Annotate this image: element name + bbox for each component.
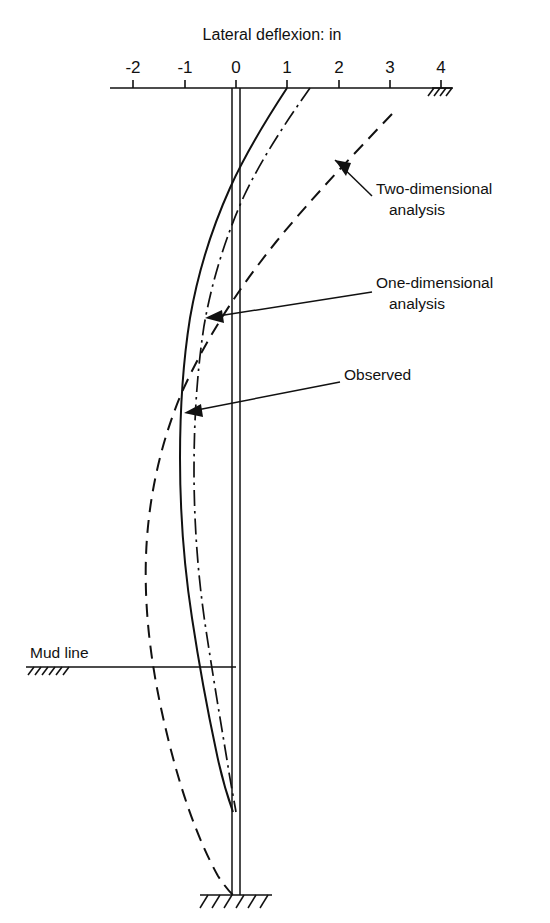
x-tick-label-0: 0 bbox=[231, 58, 240, 77]
annotation-two-dimensional-line1: Two-dimensional bbox=[376, 180, 492, 197]
curve-observed bbox=[180, 88, 287, 812]
x-tick-label-4: 4 bbox=[436, 58, 445, 77]
arrowhead-one-dimensional bbox=[205, 310, 224, 323]
pile-base-support-icon bbox=[200, 895, 272, 908]
x-tick-label-minus1: -1 bbox=[177, 58, 192, 77]
x-tick-label-2: 2 bbox=[334, 58, 343, 77]
annotation-two-dimensional: Two-dimensional analysis bbox=[335, 160, 492, 218]
axis-title: Lateral deflexion: in bbox=[203, 26, 342, 43]
annotation-observed-label: Observed bbox=[344, 366, 411, 383]
annotation-one-dimensional-line1: One-dimensional bbox=[376, 274, 493, 291]
annotation-one-dimensional-line2: analysis bbox=[389, 295, 445, 312]
axis-right-support-hatch-icon bbox=[428, 88, 452, 96]
lateral-deflexion-figure: Lateral deflexion: in -2 -1 0 1 2 3 4 Mu… bbox=[0, 0, 550, 923]
curve-two-dimensional-analysis bbox=[146, 114, 392, 895]
mud-line-label: Mud line bbox=[30, 644, 89, 661]
annotation-one-dimensional: One-dimensional analysis bbox=[205, 274, 493, 323]
annotation-observed: Observed bbox=[184, 366, 411, 417]
arrowhead-observed bbox=[184, 404, 203, 417]
x-tick-label-1: 1 bbox=[282, 58, 291, 77]
curve-one-dimensional-analysis bbox=[194, 88, 310, 812]
mud-line-hatch-icon bbox=[28, 667, 69, 675]
x-tick-label-minus2: -2 bbox=[125, 58, 140, 77]
x-tick-label-3: 3 bbox=[385, 58, 394, 77]
annotation-two-dimensional-line2: analysis bbox=[389, 201, 445, 218]
